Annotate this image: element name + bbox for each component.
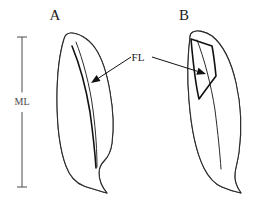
fl-label: FL [132, 51, 145, 63]
figure-container: ML A B FL [0, 0, 254, 215]
panel-a: A [50, 7, 113, 193]
panel-label-b: B [179, 7, 189, 23]
muscle-a-outline-stroke [57, 33, 113, 193]
muscle-architecture-diagram: ML A B FL [0, 0, 254, 215]
muscle-b-outline-stroke [188, 31, 241, 193]
scale-bar-label: ML [15, 96, 30, 107]
scale-bar-ml: ML [15, 37, 30, 187]
panel-label-a: A [50, 7, 61, 23]
panel-b: B [179, 7, 241, 193]
